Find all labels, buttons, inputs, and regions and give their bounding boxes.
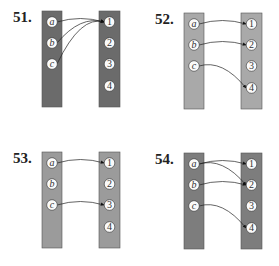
svg-text:4: 4 xyxy=(249,82,254,93)
svg-text:c: c xyxy=(192,200,197,211)
svg-text:4: 4 xyxy=(249,222,254,233)
svg-text:b: b xyxy=(50,37,55,48)
mapping-arrow-b-to-1 xyxy=(57,21,104,43)
diagram-canvas: abc1234abc1234abc1234abc1234 xyxy=(0,0,279,266)
mapping-arrow-a-to-1 xyxy=(199,21,246,25)
svg-text:b: b xyxy=(192,179,197,190)
svg-text:c: c xyxy=(50,58,55,69)
mapping-arrow-b-to-2 xyxy=(199,42,246,46)
mapping-arrow-b-to-2 xyxy=(199,182,246,186)
svg-text:3: 3 xyxy=(107,58,112,69)
domain-node-c: c xyxy=(47,199,58,210)
codomain-node-1: 1 xyxy=(104,157,115,168)
mapping-arrow-c-to-4 xyxy=(199,205,246,228)
svg-text:2: 2 xyxy=(249,39,254,50)
domain-node-b: b xyxy=(47,37,58,48)
domain-node-c: c xyxy=(189,200,200,211)
svg-text:c: c xyxy=(50,199,55,210)
svg-text:3: 3 xyxy=(107,199,112,210)
codomain-node-3: 3 xyxy=(104,199,115,210)
problem-53: abc1234 xyxy=(42,152,120,248)
svg-text:a: a xyxy=(192,158,197,169)
svg-text:b: b xyxy=(50,178,55,189)
codomain-node-4: 4 xyxy=(104,221,115,232)
domain-node-c: c xyxy=(47,58,58,69)
codomain-node-4: 4 xyxy=(246,222,257,233)
mapping-arrow-a-to-1 xyxy=(199,161,246,165)
domain-node-a: a xyxy=(189,18,200,29)
svg-text:1: 1 xyxy=(107,16,112,27)
domain-node-c: c xyxy=(189,60,200,71)
mapping-arrow-c-to-4 xyxy=(199,65,246,88)
svg-text:2: 2 xyxy=(107,37,112,48)
svg-text:2: 2 xyxy=(107,178,112,189)
codomain-node-3: 3 xyxy=(246,60,257,71)
svg-text:1: 1 xyxy=(249,18,254,29)
codomain-node-4: 4 xyxy=(104,80,115,91)
problem-54: abc1234 xyxy=(184,153,262,249)
svg-text:c: c xyxy=(192,60,197,71)
svg-text:a: a xyxy=(50,157,55,168)
codomain-node-2: 2 xyxy=(246,39,257,50)
svg-text:2: 2 xyxy=(249,179,254,190)
domain-node-a: a xyxy=(189,158,200,169)
svg-text:a: a xyxy=(192,18,197,29)
problem-51: abc1234 xyxy=(42,11,120,107)
codomain-node-2: 2 xyxy=(246,179,257,190)
domain-node-a: a xyxy=(47,157,58,168)
domain-node-b: b xyxy=(189,39,200,50)
mapping-arrow-c-to-1 xyxy=(57,21,104,64)
svg-text:b: b xyxy=(192,39,197,50)
svg-text:a: a xyxy=(50,16,55,27)
codomain-node-4: 4 xyxy=(246,82,257,93)
domain-node-a: a xyxy=(47,16,58,27)
svg-text:1: 1 xyxy=(249,158,254,169)
codomain-node-1: 1 xyxy=(246,18,257,29)
codomain-node-2: 2 xyxy=(104,37,115,48)
mapping-arrow-a-to-1 xyxy=(57,160,104,164)
codomain-node-2: 2 xyxy=(104,178,115,189)
svg-text:3: 3 xyxy=(249,60,254,71)
codomain-node-3: 3 xyxy=(246,200,257,211)
svg-text:3: 3 xyxy=(249,200,254,211)
svg-text:1: 1 xyxy=(107,157,112,168)
codomain-node-1: 1 xyxy=(246,158,257,169)
codomain-node-1: 1 xyxy=(104,16,115,27)
svg-text:4: 4 xyxy=(107,221,112,232)
mapping-arrow-c-to-3 xyxy=(57,202,104,206)
domain-node-b: b xyxy=(47,178,58,189)
problem-52: abc1234 xyxy=(184,13,262,109)
domain-node-b: b xyxy=(189,179,200,190)
svg-text:4: 4 xyxy=(107,80,112,91)
codomain-node-3: 3 xyxy=(104,58,115,69)
